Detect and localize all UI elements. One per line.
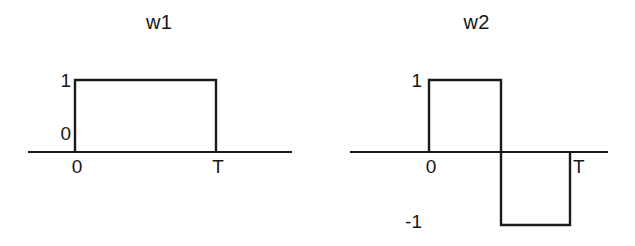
waveform-figure: w1 1 0 0 T w2 1 -1 0 T [0,0,635,246]
x-tick-label-T-w1: T [212,157,224,176]
y-tick-label-minus-one-w2: -1 [405,212,422,231]
panel-w1: w1 1 0 0 T [0,0,318,246]
plot-w1 [0,0,318,246]
waveform-path-w1 [75,80,216,152]
plot-w2 [318,0,635,246]
y-tick-label-zero-w1: 0 [60,124,71,143]
y-tick-label-one-w2: 1 [411,71,422,90]
panel-w2: w2 1 -1 0 T [318,0,635,246]
x-tick-label-T-w2: T [573,157,585,176]
x-tick-label-zero-w2: 0 [426,157,437,176]
y-tick-label-one-w1: 1 [60,71,71,90]
x-tick-label-zero-w1: 0 [72,157,83,176]
